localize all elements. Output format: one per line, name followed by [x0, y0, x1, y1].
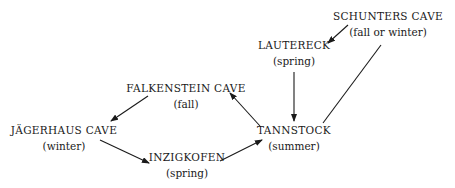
node-schunters-cave: SCHUNTERS CAVE (fall or winter): [333, 9, 443, 40]
node-season: (summer): [257, 139, 331, 154]
node-season: (fall): [126, 97, 245, 112]
edge-schunters-to-tannstock: [323, 45, 381, 123]
seasonal-migration-diagram: SCHUNTERS CAVE (fall or winter) LAUTEREC…: [0, 0, 455, 188]
node-tannstock: TANNSTOCK (summer): [257, 123, 331, 154]
node-inzigkofen: INZIGKOFEN (spring): [149, 150, 225, 181]
edge-inzigkofen-to-tannstock: [220, 140, 262, 161]
node-season: (spring): [149, 166, 225, 181]
node-name: JÄGERHAUS CAVE: [11, 123, 117, 138]
node-jagerhaus-cave: JÄGERHAUS CAVE (winter): [11, 123, 117, 154]
node-name: FALKENSTEIN CAVE: [126, 81, 245, 96]
node-name: LAUTERECK: [258, 38, 330, 53]
node-season: (fall or winter): [333, 25, 443, 40]
node-name: INZIGKOFEN: [149, 150, 225, 165]
node-name: SCHUNTERS CAVE: [333, 9, 443, 24]
node-lautereck: LAUTERECK (spring): [258, 38, 330, 69]
node-season: (winter): [11, 139, 117, 154]
node-name: TANNSTOCK: [257, 123, 331, 138]
node-falkenstein-cave: FALKENSTEIN CAVE (fall): [126, 81, 245, 112]
node-season: (spring): [258, 54, 330, 69]
